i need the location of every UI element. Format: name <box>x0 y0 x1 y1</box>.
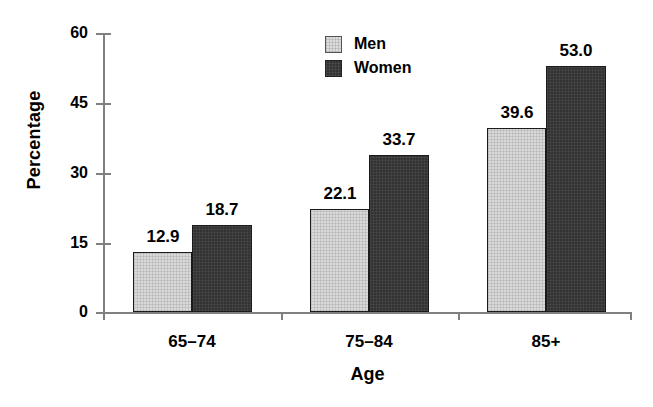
x-tick-mark-1 <box>281 312 283 320</box>
y-tick-mark-30 <box>96 173 111 175</box>
bar-men-85-plus <box>487 128 546 312</box>
bar-women-75-84 <box>369 155 429 312</box>
legend-label-women: Women <box>354 59 411 77</box>
legend: Men Women <box>325 32 411 80</box>
legend-label-men: Men <box>354 35 386 53</box>
legend-swatch-men-icon <box>325 36 342 53</box>
x-tick-label-85-plus: 85+ <box>486 332 606 352</box>
y-axis-title: Percentage <box>14 0 54 300</box>
y-tick-mark-15 <box>96 243 111 245</box>
y-tick-mark-60 <box>96 33 111 35</box>
y-tick-label-30: 30 <box>32 165 88 181</box>
bar-women-85-plus <box>546 66 606 312</box>
bar-value-women-85-plus: 53.0 <box>531 42 621 59</box>
x-tick-label-65-74: 65–74 <box>132 332 252 352</box>
bar-value-men-85-plus: 39.6 <box>472 104 562 121</box>
x-axis-title: Age <box>103 364 632 385</box>
bar-value-women-65-74: 18.7 <box>177 201 267 218</box>
x-tick-mark-3 <box>630 312 632 320</box>
bar-chart: Percentage 60 45 30 15 0 12.9 18.7 22.1 … <box>0 0 653 407</box>
legend-item-women: Women <box>325 56 411 80</box>
legend-item-men: Men <box>325 32 411 56</box>
bar-men-75-84 <box>310 209 369 312</box>
y-tick-mark-45 <box>96 103 111 105</box>
y-tick-label-0: 0 <box>32 304 88 320</box>
bar-value-women-75-84: 33.7 <box>354 131 444 148</box>
x-axis-line <box>103 312 632 314</box>
y-tick-label-45: 45 <box>32 95 88 111</box>
x-tick-mark-0 <box>103 312 105 320</box>
x-tick-label-75-84: 75–84 <box>309 332 429 352</box>
bar-men-65-74 <box>133 252 192 312</box>
legend-swatch-women-icon <box>325 60 342 77</box>
y-tick-label-60: 60 <box>32 25 88 41</box>
bar-value-men-75-84: 22.1 <box>295 185 385 202</box>
bar-value-men-65-74: 12.9 <box>118 228 208 245</box>
x-tick-mark-2 <box>458 312 460 320</box>
y-tick-label-15: 15 <box>32 235 88 251</box>
